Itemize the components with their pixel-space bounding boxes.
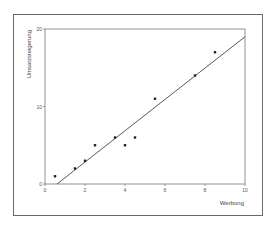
y-tick-label: 20 bbox=[36, 26, 42, 32]
data-point bbox=[84, 160, 86, 162]
x-axis-ticks: 0246810 bbox=[44, 184, 248, 193]
y-axis-title: Umsatzsteigerung bbox=[26, 30, 32, 78]
data-point bbox=[94, 144, 96, 146]
data-point bbox=[124, 144, 126, 146]
data-point bbox=[154, 98, 156, 100]
x-axis-title: Werbung bbox=[220, 200, 244, 206]
data-point bbox=[54, 175, 56, 177]
y-tick-label: 0 bbox=[39, 181, 42, 187]
x-tick-label: 6 bbox=[164, 187, 167, 193]
x-tick-label: 2 bbox=[84, 187, 87, 193]
data-point bbox=[214, 51, 216, 53]
x-tick-label: 10 bbox=[242, 187, 248, 193]
data-points bbox=[54, 51, 216, 177]
data-point bbox=[194, 74, 196, 76]
data-point bbox=[74, 167, 76, 169]
y-tick-label: 10 bbox=[36, 104, 42, 110]
x-tick-label: 8 bbox=[204, 187, 207, 193]
data-point bbox=[134, 136, 136, 138]
x-tick-label: 0 bbox=[44, 187, 47, 193]
scatter-chart: 0246810 01020 Werbung Umsatzsteigerung bbox=[0, 0, 277, 227]
x-tick-label: 4 bbox=[124, 187, 127, 193]
data-point bbox=[114, 136, 116, 138]
y-axis-ticks: 01020 bbox=[36, 26, 45, 187]
